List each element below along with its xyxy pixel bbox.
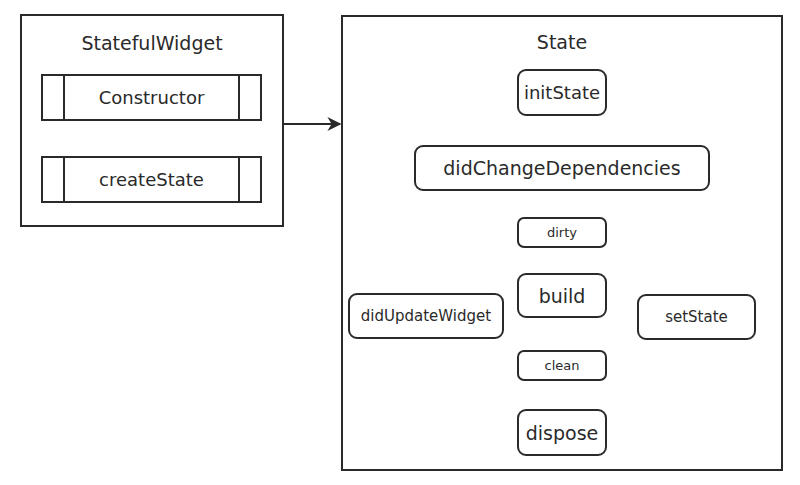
process-bar-left (63, 158, 65, 201)
initState-label: initState (524, 82, 600, 103)
node-build: build (517, 273, 607, 318)
node-dispose: dispose (517, 409, 607, 456)
node-initState: initState (517, 69, 607, 116)
dispose-label: dispose (526, 422, 599, 444)
constructor-label: Constructor (99, 87, 205, 108)
node-didChangeDependencies: didChangeDependencies (414, 145, 710, 191)
dirty-label: dirty (547, 225, 577, 240)
build-label: build (539, 285, 586, 307)
setState-label: setState (665, 308, 728, 326)
process-bar-right (238, 76, 240, 119)
node-clean: clean (517, 350, 607, 381)
process-bar-left (63, 76, 65, 119)
node-didUpdateWidget: didUpdateWidget (348, 293, 504, 339)
stateful-widget-title: StatefulWidget (20, 32, 284, 54)
clean-label: clean (545, 358, 580, 373)
node-dirty: dirty (517, 217, 607, 248)
create-state-step: createState (41, 156, 262, 203)
node-setState: setState (637, 294, 756, 340)
create-state-label: createState (99, 169, 204, 190)
state-title: State (341, 31, 783, 53)
didChangeDependencies-label: didChangeDependencies (443, 157, 680, 179)
constructor-step: Constructor (41, 74, 262, 121)
didUpdateWidget-label: didUpdateWidget (361, 307, 491, 325)
process-bar-right (238, 158, 240, 201)
